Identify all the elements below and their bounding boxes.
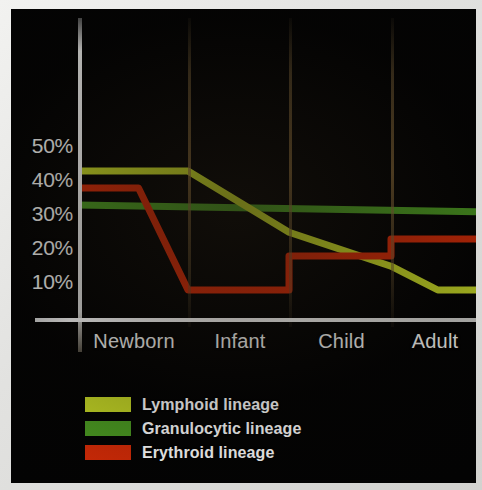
legend-item-erythroid: Erythroid lineage	[85, 442, 415, 463]
chart-legend: Lymphoid lineage Granulocytic lineage Er…	[85, 394, 415, 466]
legend-item-granulocytic: Granulocytic lineage	[85, 418, 415, 439]
series-line-granulocytic	[78, 205, 476, 212]
x-tick-label-child: Child	[292, 326, 391, 356]
y-tick-label: 10%	[11, 271, 73, 292]
y-tick-label: 50%	[11, 135, 73, 156]
legend-item-lymphoid: Lymphoid lineage	[85, 394, 415, 415]
x-tick-label-newborn: Newborn	[80, 326, 188, 356]
chart-panel: 50% 40% 30% 20% 10% Newborn Infant Child…	[11, 9, 476, 483]
legend-label-erythroid: Erythroid lineage	[142, 445, 274, 461]
x-axis-line	[35, 318, 476, 322]
y-tick-label: 40%	[11, 169, 73, 190]
y-tick-label: 20%	[11, 237, 73, 258]
series-lines	[78, 18, 476, 327]
x-tick-label-infant: Infant	[191, 326, 289, 356]
x-tick-label-adult: Adult	[394, 326, 476, 356]
gridline-infant-child	[289, 18, 292, 327]
legend-label-granulocytic: Granulocytic lineage	[142, 421, 301, 437]
x-axis-ticks: Newborn Infant Child Adult	[78, 326, 476, 360]
y-axis-line	[78, 18, 82, 352]
image-frame: 50% 40% 30% 20% 10% Newborn Infant Child…	[0, 0, 482, 490]
legend-swatch-lymphoid	[85, 397, 131, 412]
legend-swatch-erythroid	[85, 445, 131, 460]
gridline-newborn-infant	[188, 18, 191, 327]
y-tick-label: 30%	[11, 203, 73, 224]
plot-area	[78, 18, 476, 327]
legend-label-lymphoid: Lymphoid lineage	[142, 397, 279, 413]
y-axis-ticks: 50% 40% 30% 20% 10%	[11, 9, 73, 343]
gridline-child-adult	[391, 18, 394, 327]
legend-swatch-granulocytic	[85, 421, 131, 436]
